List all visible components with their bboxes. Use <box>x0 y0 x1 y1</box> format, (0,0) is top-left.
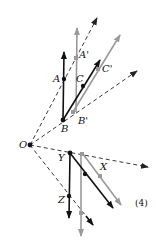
point-lower-gray <box>79 211 83 215</box>
label-b: B <box>60 123 68 134</box>
label-a: A <box>52 73 60 84</box>
label-o: O <box>19 139 27 150</box>
label-b-prime: B' <box>77 115 88 126</box>
points <box>28 56 102 215</box>
point-c <box>81 84 85 88</box>
labels: A A' C C' B' B O Y X Z (4) <box>19 49 148 208</box>
label-x: X <box>99 161 108 172</box>
point-z <box>67 194 71 198</box>
label-a-prime: A' <box>78 49 89 60</box>
point-o <box>28 143 33 148</box>
vector-bc <box>63 60 100 120</box>
point-b-prime <box>71 110 75 114</box>
label-z: Z <box>57 194 66 205</box>
ray-through-y <box>30 145 148 167</box>
vector-lower-ray-tip <box>86 216 93 225</box>
point-b <box>61 118 66 123</box>
label-c-prime: C' <box>102 63 112 74</box>
figure-number: (4) <box>135 198 148 208</box>
point-y-diagonal-mid <box>83 172 87 176</box>
vector-yz <box>69 153 70 218</box>
label-c: C <box>76 73 84 84</box>
dashed-rays <box>30 18 148 225</box>
point-a <box>62 77 66 81</box>
point-a-prime <box>74 56 78 60</box>
point-c-prime <box>96 67 100 71</box>
point-y <box>68 151 73 156</box>
point-gray-top <box>80 152 84 156</box>
vector-diagram: A A' C C' B' B O Y X Z (4) <box>0 0 156 251</box>
point-x <box>98 174 102 178</box>
label-y: Y <box>58 152 66 163</box>
vector-ba <box>63 52 64 120</box>
